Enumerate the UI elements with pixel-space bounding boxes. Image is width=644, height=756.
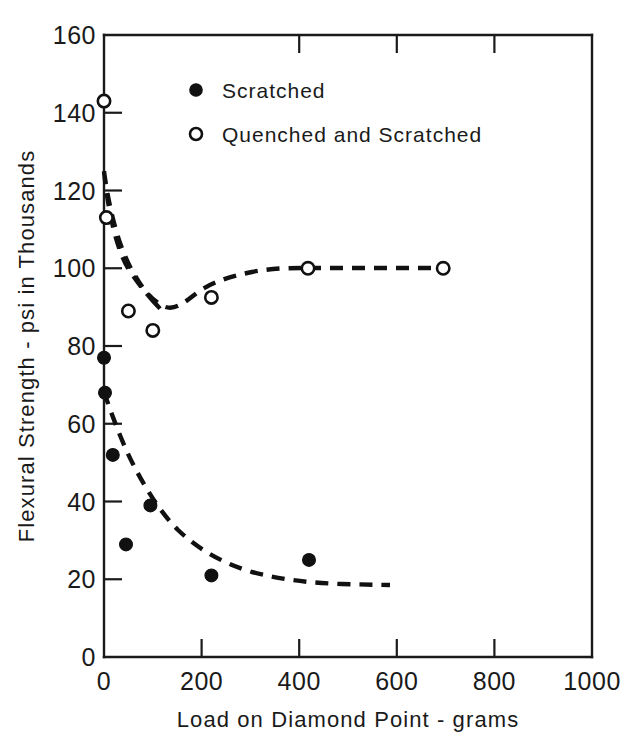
x-tick-labels: 0 200 400 600 800 1000 (97, 667, 621, 695)
y-tick-label-0: 0 (82, 643, 96, 671)
x-tick-label-800: 800 (473, 667, 516, 695)
data-point-quenched-2 (122, 305, 134, 317)
y-tick-label-160: 160 (53, 21, 96, 49)
y-tick-label-140: 140 (53, 99, 96, 127)
x-tick-label-200: 200 (180, 667, 223, 695)
data-point-scratched-4 (144, 499, 157, 512)
legend-marker-quenched-icon (190, 128, 202, 140)
data-point-scratched-5 (205, 569, 218, 582)
data-point-scratched-1 (99, 386, 112, 399)
y-tick-label-100: 100 (53, 254, 96, 282)
y-tick-label-120: 120 (53, 177, 96, 205)
flexural-strength-scatter-chart: 160 140 120 100 80 60 40 20 0 0 200 400 … (0, 0, 644, 756)
x-axis-title: Load on Diamond Point - grams (177, 707, 520, 732)
x-tick-label-0: 0 (97, 667, 111, 695)
quenched-trend-line (104, 171, 442, 309)
chart-figure: 160 140 120 100 80 60 40 20 0 0 200 400 … (0, 0, 644, 756)
x-tick-label-400: 400 (278, 667, 321, 695)
data-point-quenched-5 (302, 262, 314, 274)
data-point-scratched-0 (98, 351, 111, 364)
legend-marker-scratched-icon (190, 84, 202, 96)
y-tick-label-20: 20 (67, 565, 96, 593)
data-point-quenched-6 (437, 262, 449, 274)
legend-label-quenched: Quenched and Scratched (222, 123, 482, 146)
x-tick-label-1000: 1000 (563, 667, 621, 695)
y-axis-title: Flexural Strength - psi in Thousands (14, 150, 39, 543)
data-point-quenched-4 (205, 291, 217, 303)
scratched-trend-line (104, 392, 390, 585)
data-point-quenched-3 (147, 324, 159, 336)
data-point-quenched-1 (100, 211, 112, 223)
data-point-quenched-0 (98, 95, 110, 107)
legend-label-scratched: Scratched (222, 79, 326, 102)
y-tick-label-80: 80 (67, 332, 96, 360)
data-point-scratched-2 (106, 449, 119, 462)
data-point-scratched-3 (120, 538, 133, 551)
x-tick-label-600: 600 (375, 667, 418, 695)
y-tick-label-40: 40 (67, 488, 96, 516)
data-point-scratched-6 (303, 554, 316, 567)
y-tick-labels: 160 140 120 100 80 60 40 20 0 (53, 21, 96, 671)
scratched-data-markers (98, 351, 316, 581)
chart-legend: Scratched Quenched and Scratched (190, 79, 482, 146)
y-tick-label-60: 60 (67, 410, 96, 438)
